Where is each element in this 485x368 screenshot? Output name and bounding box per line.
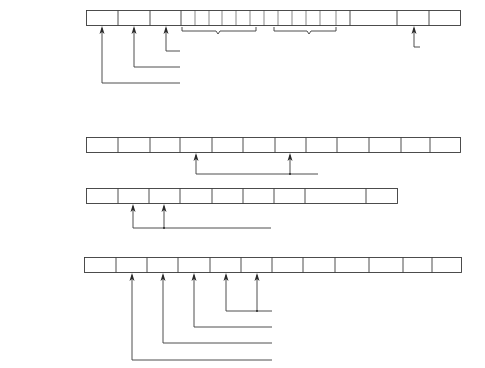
cell-char-9 — [306, 10, 320, 25]
cell-stx — [87, 10, 118, 25]
cell-char-2 — [181, 10, 195, 25]
cell-char-semicolon-b — [320, 10, 336, 25]
cell-char-point — [209, 10, 222, 25]
cell-char-point-b — [292, 10, 306, 25]
cell-char-2b — [236, 10, 250, 25]
cell-char-semicolon — [250, 10, 264, 25]
cell-char-6 — [195, 10, 209, 25]
cell-char-6b — [278, 10, 292, 25]
cell-digit-count — [150, 10, 181, 25]
cell-char-3 — [222, 10, 236, 25]
diagram-lines — [0, 0, 485, 368]
cell-char-1 — [264, 10, 278, 25]
cell-cntrl — [118, 10, 150, 25]
